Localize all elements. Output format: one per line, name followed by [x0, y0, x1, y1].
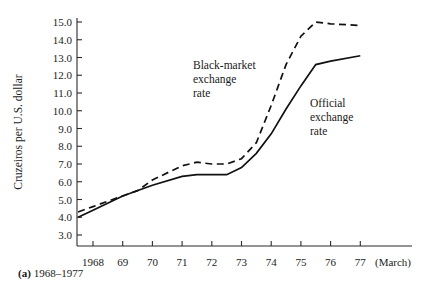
- y-tick-label: 11.0: [53, 87, 72, 99]
- y-tick-label: 6.0: [58, 176, 72, 188]
- x-tick-label: 76: [325, 256, 337, 268]
- y-axis-ticks: 3.04.05.06.07.08.09.010.011.012.013.014.…: [53, 16, 82, 241]
- annotation-official: Official exchange rate: [310, 97, 353, 137]
- y-tick-label: 15.0: [53, 16, 73, 28]
- y-tick-label: 14.0: [53, 34, 73, 46]
- figure-caption: (a)1968–1977: [18, 267, 83, 279]
- y-tick-label: 7.0: [58, 158, 72, 170]
- figure-caption-text: 1968–1977: [34, 267, 84, 279]
- annotation-black-market: Black-market exchange rate: [193, 59, 256, 99]
- x-tick-label: 77: [355, 256, 367, 268]
- annotation-official-line-1: Official: [310, 97, 346, 109]
- y-tick-label: 4.0: [58, 211, 72, 223]
- x-tick-label: 70: [147, 256, 159, 268]
- x-tick-label: 69: [117, 256, 129, 268]
- y-axis-title: Cruzeiros per U.S. dollar: [12, 74, 25, 189]
- x-tick-label: 72: [206, 256, 217, 268]
- y-tick-label: 3.0: [58, 229, 72, 241]
- x-tick-label: 74: [266, 256, 278, 268]
- annotation-official-line-2: exchange: [310, 111, 353, 124]
- figure-container: 3.04.05.06.07.08.09.010.011.012.013.014.…: [0, 0, 430, 293]
- y-tick-label: 13.0: [53, 52, 73, 64]
- annotation-black-market-line-3: rate: [193, 87, 210, 99]
- annotation-black-market-line-2: exchange: [193, 73, 236, 86]
- x-axis-suffix-label: (March): [375, 256, 411, 269]
- x-tick-label: 1968: [82, 256, 105, 268]
- x-axis-ticks: 1968697071727374757677: [82, 241, 366, 268]
- annotation-official-line-3: rate: [310, 125, 327, 137]
- y-tick-label: 5.0: [58, 194, 72, 206]
- line-chart: 3.04.05.06.07.08.09.010.011.012.013.014.…: [0, 0, 430, 293]
- annotation-black-market-line-1: Black-market: [193, 59, 256, 71]
- x-tick-label: 73: [236, 256, 248, 268]
- y-tick-label: 8.0: [58, 140, 72, 152]
- x-tick-label: 75: [295, 256, 307, 268]
- y-tick-label: 10.0: [53, 105, 73, 117]
- y-tick-label: 12.0: [53, 69, 73, 81]
- figure-caption-label: (a): [18, 267, 31, 279]
- y-tick-label: 9.0: [58, 123, 72, 135]
- x-tick-label: 71: [177, 256, 188, 268]
